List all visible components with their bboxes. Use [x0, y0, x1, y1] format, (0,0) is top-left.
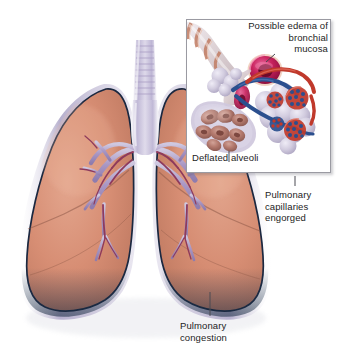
pulmonary-congestion-illustration: Possible edema of bronchial mucosa Defla…	[0, 0, 340, 356]
label-pulmonary-congestion: Pulmonary congestion	[180, 320, 256, 343]
lung-left	[19, 84, 140, 320]
trachea	[133, 40, 157, 100]
label-pulmonary-capillaries-engorged: Pulmonary capillaries engorged	[265, 189, 339, 224]
label-possible-edema: Possible edema of bronchial mucosa	[238, 20, 328, 55]
carina	[131, 100, 159, 155]
label-deflated-alveoli: Deflated alveoli	[192, 152, 276, 164]
